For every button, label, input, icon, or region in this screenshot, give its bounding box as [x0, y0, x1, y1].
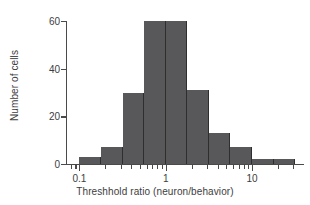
x-axis-minor-tick: [140, 165, 141, 169]
x-axis-minor-tick: [131, 165, 132, 169]
x-axis-minor-tick: [239, 165, 240, 169]
y-axis-line: [66, 21, 67, 164]
histogram-bar: [209, 133, 231, 164]
x-axis-minor-tick: [152, 165, 153, 169]
x-axis-minor-tick: [248, 165, 249, 169]
y-axis-tick: [61, 21, 66, 22]
histogram-bar: [101, 147, 123, 164]
y-axis-tick: [61, 116, 66, 117]
x-axis-major-tick: [79, 165, 80, 171]
y-axis-tick: [61, 69, 66, 70]
histogram-figure: Number of cells 0204060 0.1110 Threshhol…: [0, 0, 310, 205]
histogram-bar: [274, 159, 296, 164]
x-axis-minor-tick: [157, 165, 158, 169]
x-axis-tick-label: 0.1: [72, 173, 86, 184]
y-axis-title: Number of cells: [6, 0, 22, 170]
plot-area: 0204060 0.1110: [66, 18, 304, 168]
histogram-bar: [166, 21, 188, 164]
y-axis-tick-label: 60: [49, 16, 60, 27]
x-axis-minor-tick: [244, 165, 245, 169]
y-axis-tick-label: 0: [54, 159, 60, 170]
histogram-bar: [123, 93, 145, 165]
histogram-bar: [144, 21, 166, 164]
x-axis-minor-tick: [226, 165, 227, 169]
y-axis-tick-label: 40: [49, 63, 60, 74]
x-axis-tick-label: 10: [246, 173, 257, 184]
histogram-bar: [252, 159, 274, 164]
y-axis-title-text: Number of cells: [9, 50, 20, 121]
x-axis-minor-tick: [293, 165, 294, 169]
x-axis-minor-tick: [233, 165, 234, 169]
x-axis-tick-label: 1: [163, 173, 169, 184]
y-axis-tick-label: 20: [49, 111, 60, 122]
x-axis-title: Threshhold ratio (neuron/behavior): [0, 186, 310, 197]
x-axis-minor-tick: [162, 165, 163, 169]
x-axis-minor-tick: [192, 165, 193, 169]
x-axis-minor-tick: [71, 165, 72, 169]
x-axis-major-tick: [252, 165, 253, 171]
x-axis-minor-tick: [75, 165, 76, 169]
x-axis-minor-tick: [218, 165, 219, 169]
histogram-bar: [230, 147, 252, 164]
x-axis-minor-tick: [105, 165, 106, 169]
x-axis-minor-tick: [121, 165, 122, 169]
x-axis-line: [66, 164, 304, 165]
y-axis-tick: [61, 164, 66, 165]
histogram-bar: [79, 157, 101, 164]
x-axis-major-tick: [166, 165, 167, 171]
x-axis-minor-tick: [207, 165, 208, 169]
x-axis-minor-tick: [147, 165, 148, 169]
histogram-bar: [187, 90, 209, 164]
x-axis-minor-tick: [278, 165, 279, 169]
